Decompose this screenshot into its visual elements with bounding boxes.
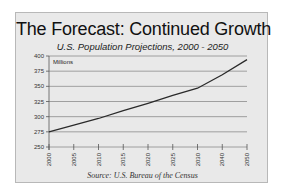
- x-tick-label: 2025: [170, 152, 176, 166]
- y-tick-label: 300: [34, 114, 45, 120]
- y-tick-label: 275: [34, 129, 45, 135]
- y-tick-label: 250: [34, 144, 45, 150]
- x-tick-label: 2000: [46, 152, 52, 166]
- y-tick-label: 325: [34, 99, 45, 105]
- x-tick-label: 2015: [120, 152, 126, 166]
- x-tick-label: 2030: [195, 152, 201, 166]
- x-tick-label: 2050: [244, 152, 250, 166]
- x-tick-label: 2020: [145, 152, 151, 166]
- x-tick-label: 2010: [96, 152, 102, 166]
- line-chart-plot: 2502753003253503754002000200520102015202…: [0, 0, 282, 193]
- population-line: [49, 60, 247, 132]
- y-tick-label: 400: [34, 53, 45, 59]
- y-tick-label: 375: [34, 68, 45, 74]
- x-tick-label: 2005: [71, 152, 77, 166]
- y-unit-label: Millions: [53, 59, 73, 65]
- y-tick-label: 350: [34, 83, 45, 89]
- x-tick-label: 2040: [219, 152, 225, 166]
